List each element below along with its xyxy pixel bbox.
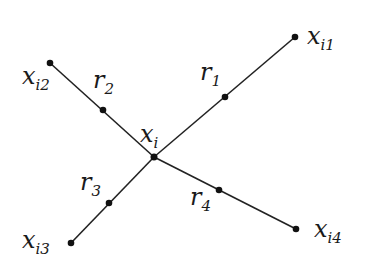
midpoint-r1 (222, 94, 229, 101)
endpoint-x-i3 (68, 240, 75, 247)
label-x-i3: xi3 (22, 226, 50, 258)
midpoint-r3 (106, 200, 113, 207)
label-x-i1: xi1 (307, 22, 335, 54)
label-x-i: xi (140, 120, 159, 152)
endpoint-x-i1 (292, 34, 299, 41)
endpoint-x-i4 (293, 226, 300, 233)
label-x-i2-subscript: i2 (36, 76, 50, 94)
midpoint-r4 (216, 187, 223, 194)
label-r3: r3 (80, 168, 101, 200)
edge-4 (154, 157, 296, 229)
label-x-i3-main: x (22, 226, 36, 254)
label-x-i2-main: x (22, 62, 36, 90)
label-x-i1-main: x (307, 22, 321, 50)
label-x-i4-main: x (314, 215, 328, 243)
midpoint-r2 (100, 107, 107, 114)
endpoint-x-i2 (47, 60, 54, 67)
label-x-i1-subscript: i1 (321, 36, 335, 54)
label-r2-subscript: 2 (103, 80, 114, 98)
label-x-i-subscript: i (154, 134, 159, 152)
label-x-i-main: x (140, 120, 154, 148)
center-point-x-i (151, 154, 158, 161)
label-x-i3-subscript: i3 (36, 240, 50, 258)
edges (50, 37, 296, 243)
label-x-i4-subscript: i4 (328, 229, 342, 247)
labels: xi1r1xi2r2xi3r3xi4r4xi (22, 22, 342, 258)
label-r4-subscript: 4 (200, 197, 211, 215)
label-r2: r2 (93, 66, 114, 98)
label-x-i4: xi4 (314, 215, 342, 247)
star-diagram: xi1r1xi2r2xi3r3xi4r4xi (0, 0, 368, 273)
label-r1: r1 (200, 58, 221, 90)
label-r3-subscript: 3 (91, 182, 101, 200)
label-r1-subscript: 1 (211, 72, 221, 90)
label-r4: r4 (190, 183, 211, 215)
label-x-i2: xi2 (22, 62, 50, 94)
